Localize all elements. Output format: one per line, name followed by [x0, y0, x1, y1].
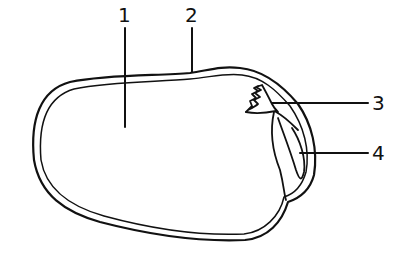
label-1: 1 — [118, 3, 131, 27]
radicle — [272, 112, 286, 200]
seed-diagram: 1 2 3 4 — [0, 0, 406, 264]
label-4: 4 — [372, 141, 385, 165]
label-3: 3 — [372, 91, 385, 115]
plumule-base — [246, 111, 276, 113]
radicle-inner — [278, 118, 304, 179]
seed-coat-outer — [33, 67, 315, 240]
seed-coat-inner — [40, 74, 307, 234]
label-2: 2 — [185, 3, 198, 27]
